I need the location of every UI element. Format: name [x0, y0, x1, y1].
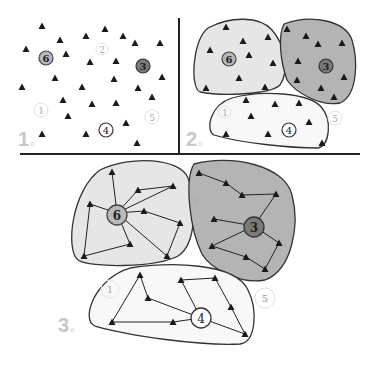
panel-3-label: 3o	[58, 315, 74, 335]
svg-text:1: 1	[222, 108, 228, 118]
head-5: 5	[145, 110, 159, 124]
head-6: 6	[39, 51, 53, 65]
svg-text:2: 2	[99, 45, 105, 55]
svg-text:2: 2	[282, 45, 288, 55]
cluster-6-region	[72, 161, 194, 266]
panel-1-label: 1o	[18, 129, 34, 149]
panel-1-number: 1	[18, 128, 29, 150]
svg-text:6: 6	[226, 54, 233, 65]
svg-text:2: 2	[193, 195, 199, 206]
svg-text:3: 3	[250, 221, 258, 235]
clustering-diagram: 6 2 3 1 5 4 6 2 3 1 5 4	[0, 0, 377, 366]
cluster-4-region	[210, 93, 329, 148]
cluster-6-region	[194, 19, 285, 94]
panel-3-suffix: o	[70, 326, 74, 333]
svg-text:4: 4	[103, 125, 109, 136]
panel-1-suffix: o	[30, 140, 34, 147]
svg-text:1: 1	[107, 284, 113, 295]
panel-2: 6 2 3 1 5 4	[194, 19, 356, 148]
svg-text:4: 4	[286, 125, 292, 136]
svg-text:6: 6	[113, 209, 121, 223]
panel-2-suffix: o	[198, 140, 202, 147]
head-1: 1	[34, 103, 48, 117]
sensor-nodes	[19, 23, 166, 147]
svg-text:3: 3	[323, 61, 330, 72]
head-2: 2	[96, 43, 108, 55]
panel-2-label: 2o	[186, 129, 202, 149]
panel-3: 6 2 3 1 5 4	[72, 160, 295, 344]
svg-text:3: 3	[140, 61, 147, 72]
svg-text:6: 6	[43, 53, 50, 64]
svg-text:5: 5	[332, 114, 338, 124]
head-4: 4	[99, 123, 113, 137]
cluster-3-region	[189, 160, 295, 280]
svg-text:1: 1	[38, 106, 44, 116]
panel-3-number: 3	[58, 314, 69, 336]
svg-text:5: 5	[262, 293, 268, 304]
panel-1: 6 2 3 1 5 4	[19, 23, 166, 147]
svg-text:5: 5	[149, 113, 155, 123]
svg-text:4: 4	[197, 312, 205, 326]
head-3: 3	[136, 59, 150, 73]
panel-2-number: 2	[186, 128, 197, 150]
